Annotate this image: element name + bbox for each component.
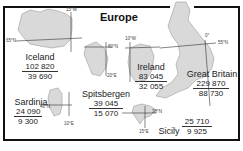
- sardinia-area-km2: 24 090: [14, 107, 42, 117]
- iceland-name: Iceland: [20, 52, 60, 62]
- spitsbergen-area: 39 045 15 070: [89, 99, 123, 118]
- sicily-shape: [132, 104, 156, 124]
- ireland-area: 83 045 32 055: [135, 72, 167, 91]
- great-britain-lat-label: 55°N: [218, 40, 228, 45]
- sicily-name: Sicily: [155, 126, 183, 136]
- iceland-area: 102 820 39 690: [22, 62, 58, 81]
- sardinia-area: 24 090 9 300: [14, 107, 42, 126]
- ireland-lon-label: 10°W: [125, 36, 136, 41]
- sardinia-lon-label: 10°E: [64, 121, 74, 126]
- sicily-lon-label: 15°E: [139, 129, 149, 134]
- iceland-area-km2: 102 820: [22, 62, 58, 72]
- great-britain-name: Great Britain: [184, 69, 240, 79]
- spitsbergen-lon-label: 20°E: [107, 73, 117, 78]
- spitsbergen-area-km2: 39 045: [89, 99, 123, 109]
- spitsbergen-name: Spitsbergen: [78, 89, 134, 99]
- ireland-area-km2: 83 045: [135, 72, 167, 82]
- iceland-area-mi2: 39 690: [22, 72, 58, 81]
- sicily-area-km2: 25 710: [182, 117, 212, 127]
- sicily-area: 25 710 9 925: [182, 117, 212, 136]
- sicily-lat-label: 38°N: [152, 109, 162, 114]
- spitsbergen-area-mi2: 15 070: [89, 109, 123, 118]
- spitsbergen-lat-label: 80°N: [108, 44, 118, 49]
- iceland-shape: [18, 9, 72, 48]
- iceland-lat-label: 65°N: [6, 38, 16, 43]
- great-britain-lon-label: 0°: [205, 33, 209, 38]
- sardinia-name: Sardinia: [11, 97, 51, 107]
- iceland-lon-label: 15°W: [66, 7, 77, 12]
- sardinia-area-mi2: 9 300: [14, 117, 42, 126]
- great-britain-area-mi2: 88 730: [193, 89, 229, 98]
- map-title: Europe: [100, 11, 138, 23]
- great-britain-area-km2: 229 870: [193, 79, 229, 89]
- ireland-area-mi2: 32 055: [135, 82, 167, 91]
- ireland-name: Ireland: [134, 62, 168, 72]
- sicily-area-mi2: 9 925: [182, 127, 212, 136]
- great-britain-area: 229 870 88 730: [193, 79, 229, 98]
